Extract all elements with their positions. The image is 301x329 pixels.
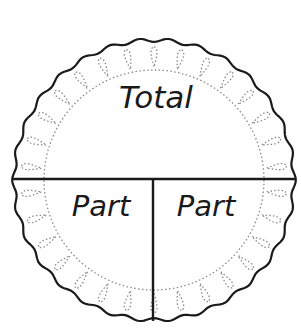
- part-right-label: Part: [177, 189, 237, 223]
- part-whole-diagram: Total Part Part: [0, 0, 301, 329]
- part-left-label: Part: [72, 189, 132, 223]
- total-label: Total: [119, 79, 193, 115]
